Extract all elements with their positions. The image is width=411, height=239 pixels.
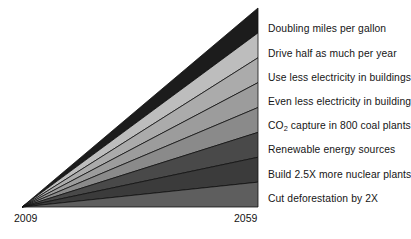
- axis-label-end-year: 2059: [234, 213, 257, 224]
- wedge-triangle-graphic: [0, 0, 411, 239]
- stabilization-wedges-chart: Doubling miles per gallon Drive half as …: [0, 0, 411, 239]
- axis-label-start-year: 2009: [14, 213, 37, 224]
